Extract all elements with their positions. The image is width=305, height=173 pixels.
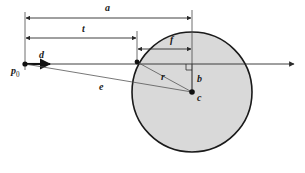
label-d: d: [39, 50, 44, 60]
label-p0: p0: [11, 66, 20, 79]
label-a: a: [105, 3, 110, 13]
label-t: t: [82, 24, 85, 34]
origin-point-dot: [22, 61, 27, 66]
label-f: f: [170, 35, 173, 45]
ray-sphere-intersection-figure: a t f d p0 e r b c: [0, 0, 305, 173]
center-point-dot: [189, 89, 195, 95]
label-c: c: [197, 93, 201, 103]
label-e: e: [99, 82, 103, 92]
label-b: b: [197, 74, 202, 84]
diagram-canvas: [0, 0, 305, 173]
label-r: r: [161, 72, 165, 82]
label-p0-subscript: 0: [16, 71, 20, 79]
hit-point-dot: [135, 60, 140, 65]
